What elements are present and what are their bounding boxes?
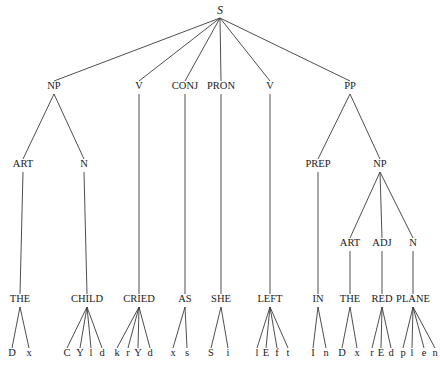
category-node: PP [344,80,356,91]
root-node: S [217,3,223,17]
phoneme-node: Y [134,347,142,358]
tree-edge [350,172,380,238]
phoneme-edge [270,307,288,348]
phoneme-edge [211,307,221,348]
phoneme-edge [350,307,357,348]
phoneme-node: k [114,347,120,358]
category-node: NP [373,158,387,169]
category-node: V [135,80,143,91]
category-node: PREP [305,158,330,169]
word-node: SHE [211,293,231,304]
tree-edge [23,94,54,159]
phoneme-edge [128,307,139,348]
word-node: THE [10,293,30,304]
phoneme-node: r [370,347,374,358]
word-node: AS [178,293,192,304]
word-node: RED [372,293,393,304]
phoneme-node: D [8,347,16,358]
phoneme-node: x [354,347,360,358]
category-node: NP [47,80,61,91]
tree-edge [54,18,220,81]
phoneme-node: n [323,347,329,358]
category-node: N [80,158,88,169]
tree-edge [220,18,270,81]
phoneme-node: f [275,347,279,358]
phoneme-edge [270,307,277,348]
phoneme-node: D [338,347,346,358]
category-node: CONJ [172,80,198,91]
phoneme-edge [381,307,382,348]
word-node: PLANE [396,293,430,304]
tree-labels: SNPVCONJPRONVPPARTNPREPNPARTADJNTHECHILD… [8,3,438,359]
category-node: ART [13,158,34,169]
phoneme-edge [138,307,139,348]
tree-edge [54,94,84,159]
tree-edge [380,172,382,238]
phoneme-node: Y [76,347,84,358]
phoneme-node: I [311,347,315,358]
word-node: THE [340,293,360,304]
phoneme-edge [413,307,424,348]
category-node: ADJ [372,237,391,248]
phoneme-edge [221,307,228,348]
phoneme-edge [413,307,435,348]
phoneme-edge [318,307,326,348]
phoneme-node: d [99,347,105,358]
word-node: IN [312,293,323,304]
word-node: CHILD [71,293,103,304]
phoneme-node: n [432,347,438,358]
word-node: LEFT [257,293,283,304]
phoneme-node: x [170,347,176,358]
phoneme-node: p [400,347,405,358]
phoneme-node: i [227,347,230,358]
phoneme-edge [173,307,185,348]
phoneme-edge [139,307,150,348]
phoneme-node: C [63,347,70,358]
phoneme-edge [412,307,413,348]
word-node: CRIED [123,293,155,304]
phoneme-edge [403,307,413,348]
phoneme-node: x [26,347,32,358]
phoneme-edge [313,307,318,348]
category-node: V [266,80,274,91]
tree-edge [220,18,350,81]
tree-edge [84,172,87,294]
category-node: PRON [207,80,235,91]
phoneme-node: t [287,347,290,358]
tree-edge [20,172,23,294]
phoneme-node: d [147,347,153,358]
category-node: N [409,237,417,248]
phoneme-edge [342,307,350,348]
phoneme-edge [12,307,20,348]
tree-edge [185,18,220,81]
phoneme-node: s [185,347,189,358]
phoneme-edge [20,307,29,348]
category-node: ART [340,237,361,248]
phoneme-node: d [388,347,394,358]
tree-edge [318,94,350,159]
phoneme-node: e [422,347,427,358]
phoneme-edge [372,307,382,348]
phoneme-edge [67,307,87,348]
tree-edge [380,172,413,238]
phoneme-node: E [378,347,384,358]
phoneme-node: l [90,347,93,358]
tree-edge [350,94,380,159]
phoneme-edge [382,307,391,348]
tree-edge [220,18,221,81]
parse-tree-diagram: SNPVCONJPRONVPPARTNPREPNPARTADJNTHECHILD… [0,0,440,366]
phoneme-node: l [256,347,259,358]
phoneme-node: l [411,347,414,358]
phoneme-node: E [263,347,269,358]
phoneme-edge [117,307,139,348]
phoneme-edge [185,307,187,348]
phoneme-node: r [126,347,130,358]
tree-edge [139,18,220,81]
phoneme-node: S [208,347,214,358]
